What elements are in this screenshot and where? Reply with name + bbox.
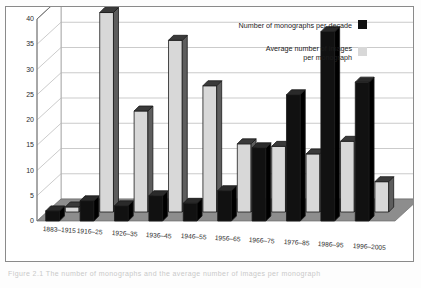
bar-1-5-front (237, 144, 251, 212)
bar-0-5-front (218, 191, 232, 221)
y-axis-tick-25: 25 (18, 91, 34, 98)
y-axis-tick-30: 30 (18, 66, 34, 73)
x-axis-tick-7: 1976–85 (283, 238, 309, 246)
bar-1-2-front (134, 111, 148, 212)
bar-0-7-side (300, 90, 305, 221)
bar-0-5-side (231, 186, 236, 221)
legend-label-images-line1: Average number of images (156, 44, 352, 53)
bar-1-9-front (375, 182, 389, 212)
legend-label-images-line2: per monograph (156, 53, 352, 62)
legend-key-images-icon (358, 47, 367, 56)
bar-0-0-front (46, 211, 60, 221)
bar-0-9-front (355, 82, 369, 221)
bar-0-4-front (183, 203, 197, 221)
bar-1-8-front (341, 141, 355, 212)
legend-label-monographs: Number of monographs per decade (156, 21, 352, 30)
x-axis-tick-6: 1966–75 (249, 236, 275, 244)
figure-caption: Figure 2.1 The number of monographs and … (8, 270, 408, 282)
bar-1-3-front (169, 40, 183, 212)
bar-0-9-side (369, 77, 374, 221)
bar-0-1-front (80, 201, 94, 221)
x-axis-tick-3: 1936–45 (146, 231, 172, 239)
y-axis-tick-20: 20 (18, 116, 34, 123)
x-axis-tick-2: 1926–35 (111, 229, 137, 237)
y-axis-tick-15: 15 (18, 141, 34, 148)
bar-1-7-front (306, 154, 320, 212)
bar-1-9-side (389, 177, 394, 212)
y-axis-tick-5: 5 (18, 192, 34, 199)
chart-frame: 05101520253035401883–19151916–251926–351… (5, 6, 414, 262)
bar-1-0-front (65, 207, 79, 212)
x-axis-tick-9: 1996–2005 (352, 242, 385, 251)
x-axis-tick-8: 1986–95 (318, 240, 344, 248)
bar-0-7-front (286, 95, 300, 221)
bar-1-4-front (203, 86, 217, 212)
y-axis-tick-10: 10 (18, 167, 34, 174)
bar-0-6-front (252, 148, 266, 221)
bar-0-6-side (266, 143, 271, 221)
chart-left-wall (37, 7, 61, 221)
y-axis-tick-35: 35 (18, 40, 34, 47)
bar-1-6-front (272, 146, 286, 212)
bar-1-1-front (100, 13, 114, 212)
y-axis-tick-40: 40 (18, 15, 34, 22)
x-axis-tick-1: 1916–25 (77, 227, 103, 235)
bar-0-2-front (114, 206, 128, 221)
y-axis-tick-0: 0 (18, 217, 34, 224)
figure-screenshot: 05101520253035401883–19151916–251926–351… (0, 0, 421, 288)
bar-1-1-side (113, 8, 118, 212)
bar-0-3-front (149, 196, 163, 221)
legend-key-monographs-icon (358, 20, 367, 29)
